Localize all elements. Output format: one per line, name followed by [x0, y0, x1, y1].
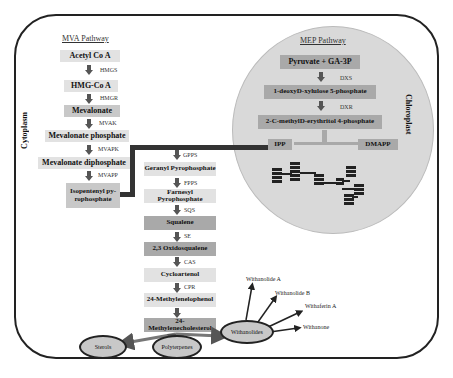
- node-withanolides: Withanolides: [220, 320, 274, 344]
- node-polyterpenes: Polyterpenes: [152, 335, 202, 359]
- label-withanolide-b: Withanolide B: [275, 290, 310, 296]
- node-sterols: Sterols: [79, 335, 127, 359]
- product-arrows: [0, 0, 453, 378]
- label-withaferin-a: Withaferin A: [305, 303, 336, 309]
- label-withanone: Withanone: [303, 324, 329, 330]
- label-withanolide-a: Withanolide A: [246, 276, 281, 282]
